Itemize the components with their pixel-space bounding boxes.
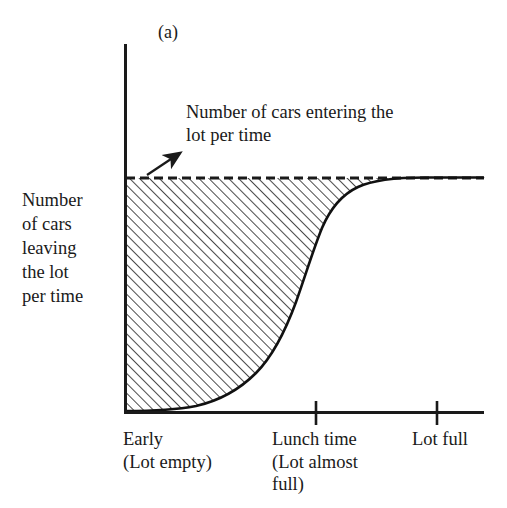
x-axis-label-lot-full: Lot full (412, 428, 468, 451)
x-axis-label-lunch-line-3: full) (272, 474, 304, 494)
figure-panel-a: (a) Number of cars entering thelot per t… (0, 0, 507, 508)
annotation-line-2: lot per time (186, 125, 271, 145)
x-axis-label-early: Early(Lot empty) (123, 428, 212, 473)
annotation-line-1: Number of cars entering the (186, 102, 394, 122)
annotation-cars-entering-label: Number of cars entering thelot per time (186, 101, 394, 146)
arrow-to-dashed-line (147, 153, 180, 175)
x-axis-label-lot-full-line-1: Lot full (412, 429, 468, 449)
y-axis-label-line-2: of cars (22, 214, 72, 234)
shaded-region-cars-accumulating (126, 177, 483, 411)
y-axis-label-line-3: leaving (22, 238, 76, 258)
x-axis-label-early-line-2: (Lot empty) (123, 452, 212, 472)
y-axis-label: Numberof carsleavingthe lotper time (22, 188, 83, 308)
y-axis-label-line-5: per time (22, 286, 83, 306)
y-axis-label-line-4: the lot (22, 262, 69, 282)
x-axis-label-lunch-line-1: Lunch time (272, 429, 357, 449)
x-axis-label-early-line-1: Early (123, 429, 163, 449)
y-axis-label-line-1: Number (22, 190, 83, 210)
x-axis-label-lunch-time: Lunch time(Lot almostfull) (272, 428, 358, 496)
panel-label: (a) (158, 22, 178, 43)
x-axis-label-lunch-line-2: (Lot almost (272, 452, 358, 472)
